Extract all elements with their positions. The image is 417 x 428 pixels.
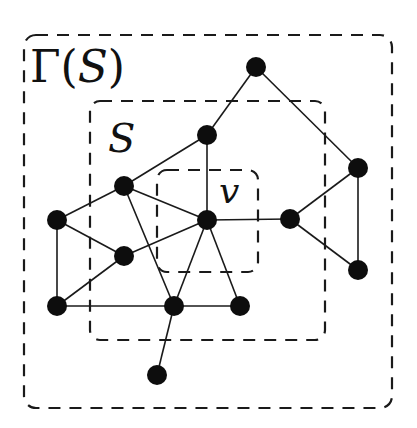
node-A [246,57,266,77]
graph-diagram: Γ(S) S v [0,0,417,428]
edge-D-K [207,219,290,220]
edge-B-C [124,135,207,186]
gamma-s-label: Γ(S) [30,41,125,92]
node-v [197,210,217,230]
node-J [147,365,167,385]
edge-A-L [256,67,358,168]
node-F [114,246,134,266]
node-B [197,125,217,145]
node-L [348,158,368,178]
node-I [230,296,250,316]
nodes-group [47,57,368,385]
v-label: v [219,170,239,211]
node-E [47,210,67,230]
node-G [47,296,67,316]
gamma-prefix: Γ( [30,41,78,92]
s-label: S [108,115,135,161]
node-K [280,209,300,229]
edge-C-E [57,186,124,220]
gamma-suffix: ) [108,41,125,92]
gamma-arg: S [78,41,108,92]
node-H [164,296,184,316]
node-M [348,260,368,280]
node-C [114,176,134,196]
edge-D-I [207,220,240,306]
